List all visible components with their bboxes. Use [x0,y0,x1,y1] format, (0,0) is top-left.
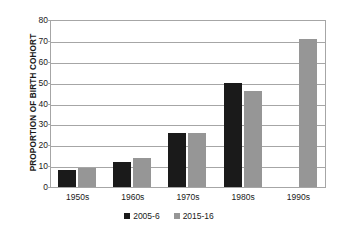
x-tick-label: 1960s [105,192,161,202]
bar[interactable] [113,162,131,187]
y-tick-label: 70 [26,37,48,46]
x-tick-label: 1950s [50,192,106,202]
y-tick-label: 80 [26,16,48,25]
y-tick-label: 40 [26,100,48,109]
legend-item[interactable]: 2005-6 [124,211,159,221]
x-tick-label: 1980s [215,192,271,202]
legend-item[interactable]: 2015-16 [174,211,214,221]
legend-swatch [174,213,180,219]
y-tick-label: 50 [26,79,48,88]
y-tick-label: 60 [26,58,48,67]
bar-group [50,20,105,187]
bar[interactable] [168,133,186,187]
bar[interactable] [244,91,262,187]
bar[interactable] [58,170,76,187]
y-tick-label: 0 [26,183,48,192]
bar-group [271,20,326,187]
bar-group [105,20,160,187]
bar-group [216,20,271,187]
bar[interactable] [78,168,96,187]
y-tick-label: 30 [26,120,48,129]
bar[interactable] [224,83,242,187]
bar-chart: PROPORTION OF BIRTH COHORT 8070605040302… [0,0,338,234]
x-tick-label: 1970s [160,192,216,202]
bar-group [160,20,215,187]
y-tick-label: 20 [26,141,48,150]
x-tick-label: 1990s [270,192,326,202]
legend-label: 2005-6 [133,211,159,221]
bar[interactable] [188,133,206,187]
bars-layer [50,20,326,187]
y-tick-label: 10 [26,162,48,171]
bar[interactable] [133,158,151,187]
legend-label: 2015-16 [183,211,214,221]
chart-legend: 2005-62015-16 [0,211,338,221]
bar[interactable] [299,39,317,187]
legend-swatch [124,213,130,219]
